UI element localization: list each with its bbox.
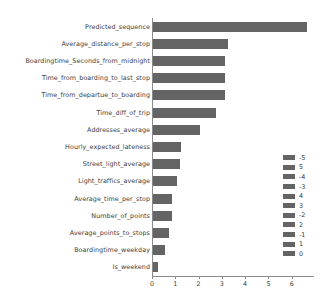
bar <box>153 262 158 272</box>
bar <box>153 211 172 221</box>
bar <box>153 56 225 66</box>
x-tick-mark <box>199 276 200 279</box>
legend-item: -3 <box>283 182 320 192</box>
legend-label: 3 <box>299 202 303 210</box>
bar-category-label: Average_distance_per_stop <box>2 40 150 48</box>
bar-category-label: Average_time_per_stop <box>2 195 150 203</box>
bar-row: Time_from_departue_to_boarding <box>0 87 320 104</box>
legend-label: -3 <box>299 183 305 191</box>
bar-category-label: Boardingtime_weekday <box>2 246 150 254</box>
legend-label: 0 <box>299 250 303 258</box>
legend-swatch <box>283 165 295 170</box>
x-tick-label: 6 <box>284 280 300 288</box>
legend-label: 5 <box>299 163 303 171</box>
bar-row: Average_time_per_stop <box>0 190 320 207</box>
legend-item: -5 <box>283 153 320 163</box>
bar <box>153 73 225 83</box>
bar-category-label: Predicted_sequence <box>2 23 150 31</box>
legend-item: 4 <box>283 191 320 201</box>
bar-category-label: Number_of_points <box>2 212 150 220</box>
bar-category-label: Addresses_average <box>2 126 150 134</box>
bar-row: Time_diff_of_trip <box>0 104 320 121</box>
legend-item: 2 <box>283 220 320 230</box>
legend-label: 4 <box>299 192 303 200</box>
bar <box>153 39 228 49</box>
legend-item: 1 <box>283 239 320 249</box>
bar <box>153 176 177 186</box>
legend-swatch <box>283 155 295 160</box>
x-tick-label: 2 <box>191 280 207 288</box>
legend-swatch <box>283 232 295 237</box>
x-tick-mark <box>292 276 293 279</box>
bar-category-label: Average_points_to_stops <box>2 229 150 237</box>
bar-row: Boardingtime_weekday <box>0 242 320 259</box>
x-tick-label: 0 <box>144 280 160 288</box>
x-tick-mark <box>268 276 269 279</box>
bar-category-label: Time_from_departue_to_boarding <box>2 91 150 99</box>
x-tick-mark <box>175 276 176 279</box>
legend-swatch <box>283 251 295 256</box>
legend-swatch <box>283 184 295 189</box>
bar <box>153 125 200 135</box>
bar <box>153 108 216 118</box>
legend-item: 3 <box>283 201 320 211</box>
x-tick-label: 3 <box>214 280 230 288</box>
legend-item: 0 <box>283 249 320 259</box>
legend-label: -1 <box>299 231 305 239</box>
bar-row: Boardingtime_Seconds_from_midnight <box>0 52 320 69</box>
legend-label: 1 <box>299 240 303 248</box>
bar <box>153 90 225 100</box>
legend-item: 5 <box>283 163 320 173</box>
bar <box>153 194 172 204</box>
x-tick-label: 1 <box>167 280 183 288</box>
x-axis-ticks: 0123456 <box>0 276 320 294</box>
feature-importance-bar-chart: Predicted_sequenceAverage_distance_per_s… <box>0 0 320 298</box>
legend-item: -4 <box>283 172 320 182</box>
bar-row: Is_weekend <box>0 259 320 276</box>
legend-item: -2 <box>283 211 320 221</box>
legend-label: 2 <box>299 221 303 229</box>
legend-label: -2 <box>299 211 305 219</box>
legend-item: -1 <box>283 230 320 240</box>
bar-row: Light_traffics_average <box>0 173 320 190</box>
bar-category-label: Is_weekend <box>2 263 150 271</box>
bar-row: Average_distance_per_stop <box>0 35 320 52</box>
legend-label: -4 <box>299 173 305 181</box>
legend-swatch <box>283 194 295 199</box>
bar-row: Street_light_average <box>0 156 320 173</box>
legend-swatch <box>283 213 295 218</box>
legend-swatch <box>283 242 295 247</box>
legend-label: -5 <box>299 154 305 162</box>
bar-rows: Predicted_sequenceAverage_distance_per_s… <box>0 18 320 276</box>
bar <box>153 159 180 169</box>
bar-category-label: Street_light_average <box>2 160 150 168</box>
bar-category-label: Time_from_boarding_to_last_stop <box>2 74 150 82</box>
bar-row: Average_points_to_stops <box>0 224 320 241</box>
bar-row: Addresses_average <box>0 121 320 138</box>
x-tick-label: 5 <box>260 280 276 288</box>
chart-legend: -55-4-343-22-110 <box>283 153 320 259</box>
bar-category-label: Boardingtime_Seconds_from_midnight <box>2 57 150 65</box>
bar-row: Time_from_boarding_to_last_stop <box>0 70 320 87</box>
legend-swatch <box>283 203 295 208</box>
x-tick-label: 4 <box>237 280 253 288</box>
bar-row: Number_of_points <box>0 207 320 224</box>
x-tick-mark <box>245 276 246 279</box>
bar-category-label: Hourly_expected_lateness <box>2 143 150 151</box>
bar <box>153 22 307 32</box>
bar-category-label: Time_diff_of_trip <box>2 109 150 117</box>
legend-swatch <box>283 222 295 227</box>
x-tick-mark <box>222 276 223 279</box>
legend-swatch <box>283 174 295 179</box>
bar-row: Hourly_expected_lateness <box>0 138 320 155</box>
bar-row: Predicted_sequence <box>0 18 320 35</box>
bar <box>153 228 169 238</box>
x-tick-mark <box>152 276 153 279</box>
bar-category-label: Light_traffics_average <box>2 177 150 185</box>
bar <box>153 142 181 152</box>
bar <box>153 245 165 255</box>
